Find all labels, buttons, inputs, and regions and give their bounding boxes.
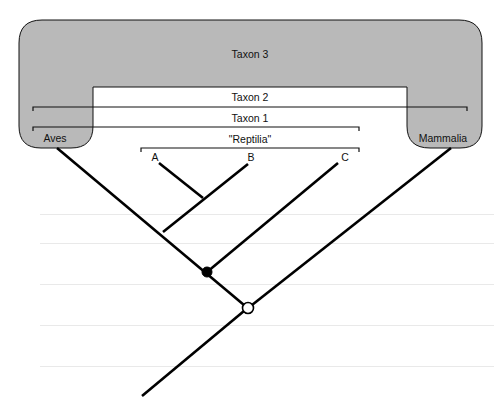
taxon3-group-shape	[19, 20, 482, 148]
branch-mammalia	[252, 148, 451, 305]
branch-a	[159, 163, 203, 198]
taxon1-label: Taxon 1	[232, 112, 269, 124]
leaf-a-label: A	[151, 151, 158, 163]
taxon2-bracket	[33, 107, 467, 111]
branch-root	[142, 311, 244, 396]
leaf-c-label: C	[341, 151, 349, 163]
open-node	[243, 303, 254, 314]
filled-node	[202, 267, 212, 277]
cladogram-diagram: Taxon 3 Taxon 2 Taxon 1 "Reptilia" Aves …	[0, 0, 494, 405]
branch-b	[163, 164, 248, 232]
taxon3-label: Taxon 3	[232, 48, 269, 60]
branch-aves	[57, 148, 244, 305]
reptilia-label: "Reptilia"	[229, 133, 271, 145]
leaf-mammalia-label: Mammalia	[419, 132, 467, 144]
branch-c	[207, 163, 338, 272]
leaf-b-label: B	[247, 151, 254, 163]
leaf-aves-label: Aves	[43, 132, 66, 144]
taxon2-label: Taxon 2	[232, 91, 269, 103]
cladogram-svg	[0, 0, 494, 405]
